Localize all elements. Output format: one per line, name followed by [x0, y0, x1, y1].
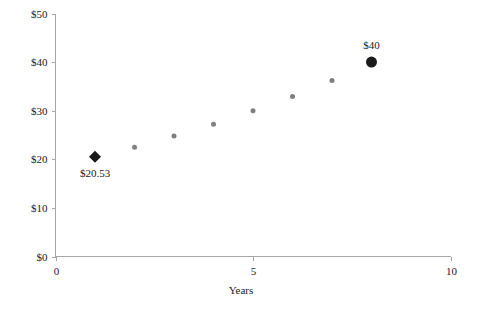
x-tick-label: 10	[427, 266, 477, 277]
data-point-label: $20.53	[55, 168, 135, 179]
data-point-marker[interactable]	[211, 122, 216, 127]
scatter-chart: $0$10$20$30$40$500510Years$20.53$40	[0, 0, 482, 312]
y-axis-ticks	[52, 15, 56, 258]
y-tick-label: $30	[6, 106, 48, 117]
data-point-marker[interactable]	[366, 57, 377, 68]
data-point-marker[interactable]	[251, 108, 256, 113]
data-point-label: $40	[332, 40, 412, 51]
y-tick-label: $0	[6, 252, 48, 263]
data-point-marker[interactable]	[290, 94, 295, 99]
x-tick-label: 5	[229, 266, 279, 277]
x-axis-title: Years	[0, 285, 482, 296]
data-point-marker[interactable]	[132, 145, 137, 150]
x-tick-label: 0	[32, 266, 82, 277]
data-point-marker[interactable]	[172, 133, 177, 138]
data-point-marker[interactable]	[330, 78, 335, 83]
x-axis-ticks	[57, 257, 452, 261]
y-tick-label: $50	[6, 9, 48, 20]
y-tick-label: $40	[6, 57, 48, 68]
y-tick-label: $10	[6, 203, 48, 214]
data-point-marker[interactable]	[89, 151, 101, 163]
data-points	[89, 57, 377, 163]
y-tick-label: $20	[6, 154, 48, 165]
